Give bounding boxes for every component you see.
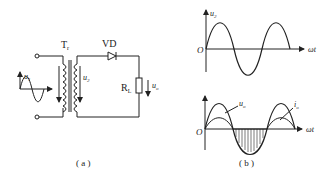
primary-coil <box>63 64 66 112</box>
diode-label: VD <box>102 38 116 49</box>
u2-waveform-plot <box>206 10 304 75</box>
wt-axis-label-bottom: ωt <box>306 125 315 134</box>
wt-axis-label-top: ωt <box>308 45 317 54</box>
secondary-voltage-label: u2 <box>83 73 90 83</box>
output-voltage-label: uo <box>152 81 159 91</box>
caption-b: ( b ) <box>239 158 254 168</box>
uo-curve-label: uo <box>239 99 246 109</box>
origin-label-bottom: O <box>196 127 203 137</box>
input-voltage-label: u1 <box>24 72 31 82</box>
half-wave-rectifier-figure: Tr VD RL u1 u2 uo ( a ) u2 O ωt <box>0 0 334 184</box>
uo-curve <box>205 104 233 130</box>
input-terminal-bottom <box>35 115 39 119</box>
blocked-half-cycle <box>233 129 267 155</box>
io-curve-label: io <box>294 100 299 110</box>
circuit-diagram <box>20 52 148 119</box>
secondary-coil <box>74 64 77 112</box>
output-waveform-plot <box>205 96 302 155</box>
transformer-label: Tr <box>61 39 69 51</box>
load-resistor <box>136 78 142 93</box>
resistor-label: RL <box>121 82 132 94</box>
input-terminal-top <box>35 54 39 58</box>
caption-a: ( a ) <box>76 158 91 168</box>
u2-axis-label: u2 <box>210 9 217 19</box>
diode-vd <box>108 52 116 60</box>
origin-label-top: O <box>197 45 204 55</box>
io-curve <box>205 118 233 129</box>
